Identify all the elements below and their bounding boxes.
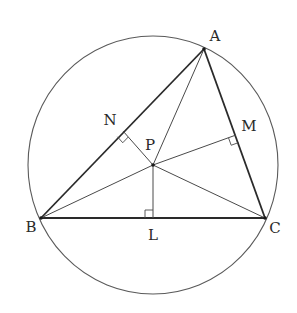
label-n: N (103, 111, 116, 129)
label-b: B (25, 218, 36, 236)
segment-pb (41, 165, 153, 218)
label-p: P (145, 136, 155, 154)
label-c: C (269, 219, 280, 237)
point-p-dot (151, 163, 155, 167)
point-a-dot (202, 47, 206, 51)
segments (41, 49, 265, 218)
point-b-dot (39, 216, 43, 220)
label-l: L (148, 226, 158, 244)
label-m: M (241, 117, 256, 135)
segment-pm (153, 135, 236, 165)
segment-ab (41, 49, 204, 218)
segment-pa (153, 49, 204, 165)
geometry-diagram: A B C P L M N (0, 0, 297, 313)
label-a: A (209, 27, 221, 45)
right-angle-marker-l (145, 210, 153, 218)
point-c-dot (263, 216, 267, 220)
